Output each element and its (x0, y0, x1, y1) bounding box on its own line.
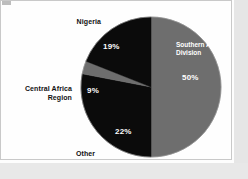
pie-value-southern-africa-division: 50% (182, 73, 199, 82)
pie-label-other: Other (76, 150, 118, 159)
scan-edge-right (234, 0, 248, 179)
pie-label-southern-africa-division: Southern Africa Division (176, 41, 238, 57)
pie-value-central-africa-region: 9% (87, 86, 99, 95)
scan-edge-bottom (0, 163, 248, 179)
pie-label-nigeria: Nigeria (55, 18, 101, 27)
pie-value-other: 22% (115, 127, 132, 136)
pie-label-central-africa-region: Central Africa Region (8, 85, 72, 102)
pie-chart: Nigeria Central Africa Region Other Sout… (0, 0, 248, 179)
pie-value-nigeria: 19% (103, 42, 120, 51)
pie-chart-screenshot: Nigeria Central Africa Region Other Sout… (0, 0, 248, 179)
pie-slice-southern-africa-division[interactable] (151, 17, 221, 157)
